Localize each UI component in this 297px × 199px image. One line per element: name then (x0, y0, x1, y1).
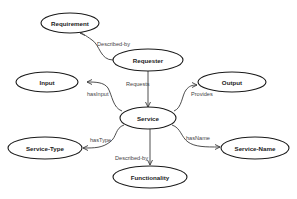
edge-requests: Requests (126, 71, 150, 107)
node-label: Output (222, 79, 242, 86)
edge-label: hasName (186, 135, 210, 141)
node-label: Service (137, 115, 160, 122)
node-label: Requirement (51, 20, 89, 27)
edge-label: Provides (191, 91, 213, 97)
node-requester: Requester (113, 49, 183, 71)
node-label: Requester (133, 57, 164, 64)
node-label: Service-Name (235, 145, 276, 152)
edge-label: Described-by (115, 155, 148, 161)
edge-label: Described-by (97, 41, 130, 47)
node-output: Output (198, 72, 266, 92)
node-service-name: Service-Name (221, 137, 289, 159)
node-service-type: Service-Type (8, 137, 82, 159)
edge-has-input: hasInput (87, 82, 122, 111)
node-label: Functionality (131, 174, 170, 181)
edge-label: Requests (126, 81, 150, 87)
node-functionality: Functionality (113, 166, 187, 188)
edge-described-by-functionality: Described-by (115, 129, 150, 165)
edge-label: hasType (90, 137, 111, 143)
node-label: Service-Type (26, 145, 65, 152)
edge-has-name: hasName (172, 125, 220, 147)
edge-label: hasInput (87, 91, 109, 97)
node-input: Input (16, 72, 78, 92)
node-service: Service (120, 107, 176, 129)
node-label: Input (39, 79, 54, 86)
arrow-icon (174, 85, 197, 111)
node-requirement: Requirement (41, 13, 99, 33)
ontology-diagram: Described-by Requests hasInput Provides … (0, 0, 297, 199)
edge-has-type: hasType (83, 125, 124, 148)
